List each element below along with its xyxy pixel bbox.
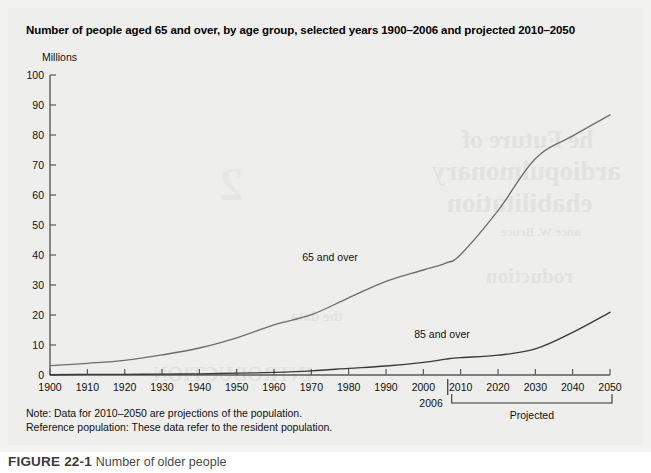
x-axis-tick-label: 2000 (412, 381, 436, 393)
figure-caption-body: Number of older people (96, 455, 227, 469)
figure-caption-bar: FIGURE 22-1 Number of older people (0, 452, 651, 473)
x-axis-tick-label: 1930 (150, 381, 174, 393)
x-axis-tick-label: 1900 (38, 381, 62, 393)
x-axis-tick-label: 2040 (561, 381, 585, 393)
y-axis-tick-label: 60 (32, 189, 44, 201)
x-axis-tick-label: 1960 (262, 381, 286, 393)
x-axis-tick-label: 2010 (449, 381, 473, 393)
series-line-85-and-over (50, 312, 610, 374)
x-axis-tick-label: 1980 (337, 381, 361, 393)
y-axis-tick-label: 40 (32, 249, 44, 261)
x-axis-tick-label: 2050 (598, 381, 622, 393)
series-label-85-and-over: 85 and over (414, 328, 470, 340)
x-axis-tick-label: 2020 (486, 381, 510, 393)
y-axis-tick-label: 20 (32, 309, 44, 321)
x-axis-tick-label: 1940 (188, 381, 212, 393)
figure-caption-label: FIGURE 22-1 (8, 454, 92, 469)
x-axis-tick-label: 1920 (113, 381, 137, 393)
x-axis-tick-label: 1950 (225, 381, 249, 393)
x-axis-tick-label: 1970 (300, 381, 324, 393)
figure-caption: FIGURE 22-1 Number of older people (8, 454, 226, 469)
y-axis-tick-label: 30 (32, 279, 44, 291)
line-chart: Millions01020304050607080901001900191019… (8, 8, 643, 445)
y-axis-tick-label: 10 (32, 339, 44, 351)
divider-year-label: 2006 (419, 397, 443, 409)
x-axis-tick-label: 1990 (374, 381, 398, 393)
series-label-65-and-over: 65 and over (302, 251, 358, 263)
figure-root: 2 he Future of ardiopulmonary ehabilitat… (0, 0, 651, 473)
y-axis-tick-label: 100 (26, 69, 44, 81)
chart-notes: Note: Data for 2010–2050 are projections… (26, 406, 332, 434)
y-axis-tick-label: 50 (32, 219, 44, 231)
series-line-65-and-over (50, 115, 610, 366)
figure-panel: 2 he Future of ardiopulmonary ehabilitat… (8, 8, 643, 445)
projected-bracket (452, 394, 612, 403)
note-line-2: Reference population: These data refer t… (26, 420, 332, 434)
y-axis-tick-label: 70 (32, 159, 44, 171)
projected-label: Projected (510, 409, 555, 421)
y-axis-tick-label: 90 (32, 99, 44, 111)
y-axis-tick-label: 0 (38, 369, 44, 381)
x-axis-tick-label: 1910 (76, 381, 100, 393)
y-axis-tick-label: 80 (32, 129, 44, 141)
x-axis-tick-label: 2030 (524, 381, 548, 393)
y-axis-label: Millions (42, 51, 77, 63)
note-line-1: Note: Data for 2010–2050 are projections… (26, 406, 332, 420)
